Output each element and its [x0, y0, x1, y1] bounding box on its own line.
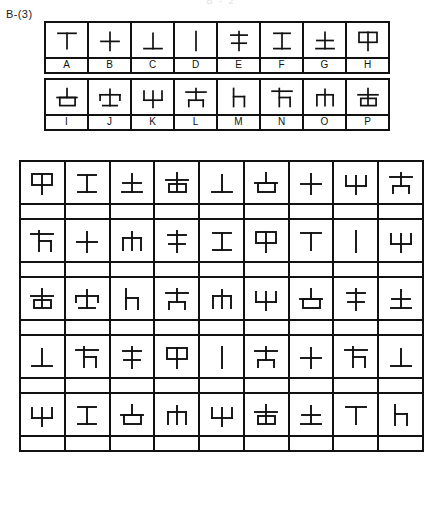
answer-cell[interactable]: [200, 263, 245, 276]
answer-cell[interactable]: [155, 379, 200, 392]
legend-symbol-h-small-right: [218, 80, 261, 114]
answer-cell[interactable]: [111, 263, 156, 276]
answer-cell[interactable]: [290, 263, 335, 276]
answer-cell[interactable]: [111, 321, 156, 334]
answer-cell[interactable]: [334, 205, 379, 218]
grid-symbol-box-on-stem-low: [245, 162, 290, 203]
grid-answer-row[interactable]: [21, 203, 422, 218]
grid-band-5: [21, 392, 422, 450]
grid-symbol-t-with-short-legs: [379, 162, 422, 203]
answer-cell[interactable]: [379, 263, 422, 276]
legend-letter-row: IJKLMNOP: [46, 114, 388, 129]
answer-cell[interactable]: [290, 379, 335, 392]
legend-letter-e: E: [218, 59, 261, 72]
answer-cell[interactable]: [379, 379, 422, 392]
legend-letter-j: J: [89, 116, 132, 129]
grid-symbol-i-beam: [66, 394, 111, 435]
legend-letter-n: N: [261, 116, 304, 129]
legend-letter-a: A: [46, 59, 89, 72]
symbol-legend: ABCDEFGHIJKLMNOP: [44, 21, 390, 131]
answer-cell[interactable]: [200, 437, 245, 450]
grid-symbol-double-cross-high: [155, 220, 200, 261]
answer-cell[interactable]: [21, 205, 66, 218]
grid-symbol-t-with-short-legs: [245, 336, 290, 377]
answer-cell[interactable]: [245, 321, 290, 334]
answer-cell[interactable]: [245, 379, 290, 392]
grid-symbol-boxed-tee: [245, 220, 290, 261]
legend-letter-i: I: [46, 116, 89, 129]
grid-symbol-cross-on-base: [111, 162, 156, 203]
legend-symbol-row: [46, 80, 388, 114]
grid-answer-row[interactable]: [21, 261, 422, 276]
grid-band-4: [21, 334, 422, 392]
answer-cell[interactable]: [155, 321, 200, 334]
answer-grid: [19, 160, 424, 452]
answer-cell[interactable]: [290, 321, 335, 334]
grid-answer-row[interactable]: [21, 377, 422, 392]
grid-answer-row[interactable]: [21, 319, 422, 334]
answer-cell[interactable]: [66, 437, 111, 450]
answer-cell[interactable]: [245, 437, 290, 450]
answer-cell[interactable]: [21, 263, 66, 276]
grid-symbol-cross-on-base: [290, 394, 335, 435]
legend-letter-m: M: [218, 116, 261, 129]
grid-symbol-flag-right-leg: [66, 336, 111, 377]
answer-cell[interactable]: [155, 263, 200, 276]
answer-cell[interactable]: [200, 379, 245, 392]
legend-block-2: IJKLMNOP: [44, 78, 390, 131]
answer-cell[interactable]: [334, 379, 379, 392]
answer-cell[interactable]: [21, 437, 66, 450]
answer-cell[interactable]: [334, 437, 379, 450]
legend-letter-o: O: [304, 116, 347, 129]
legend-letter-h: H: [347, 59, 388, 72]
grid-symbol-i-beam: [66, 162, 111, 203]
answer-cell[interactable]: [155, 205, 200, 218]
answer-cell[interactable]: [200, 321, 245, 334]
answer-cell[interactable]: [379, 205, 422, 218]
answer-cell[interactable]: [111, 205, 156, 218]
answer-cell[interactable]: [379, 321, 422, 334]
grid-symbol-boxed-tee: [21, 162, 66, 203]
grid-symbol-row: [21, 336, 422, 377]
answer-cell[interactable]: [66, 263, 111, 276]
grid-symbol-tee-down: [290, 220, 335, 261]
legend-symbol-pi-arch: [304, 80, 347, 114]
legend-letter-c: C: [132, 59, 175, 72]
legend-symbol-row: [46, 23, 388, 57]
answer-cell[interactable]: [21, 321, 66, 334]
legend-symbol-tee-down: [46, 23, 89, 57]
answer-cell[interactable]: [111, 379, 156, 392]
legend-symbol-box-on-stem-high: [347, 80, 388, 114]
answer-cell[interactable]: [66, 321, 111, 334]
answer-cell[interactable]: [334, 263, 379, 276]
answer-cell[interactable]: [334, 321, 379, 334]
legend-block-1: ABCDEFGH: [44, 21, 390, 74]
legend-symbol-psi-fork: [132, 80, 175, 114]
legend-symbol-tee-up: [132, 23, 175, 57]
grid-band-1: [21, 162, 422, 218]
grid-symbol-boxed-tee: [155, 336, 200, 377]
legend-symbol-plus: [89, 23, 132, 57]
grid-symbol-t-with-short-legs: [155, 278, 200, 319]
grid-symbol-tee-down: [334, 394, 379, 435]
grid-symbol-vertical-bar: [200, 336, 245, 377]
answer-cell[interactable]: [155, 437, 200, 450]
answer-cell[interactable]: [379, 437, 422, 450]
grid-symbol-flag-right-leg: [21, 220, 66, 261]
answer-cell[interactable]: [111, 437, 156, 450]
answer-cell[interactable]: [66, 205, 111, 218]
grid-answer-row[interactable]: [21, 435, 422, 450]
legend-letter-d: D: [175, 59, 218, 72]
answer-cell[interactable]: [245, 205, 290, 218]
answer-cell[interactable]: [21, 379, 66, 392]
answer-cell[interactable]: [290, 437, 335, 450]
answer-cell[interactable]: [290, 205, 335, 218]
grid-symbol-box-on-stem-high: [21, 278, 66, 319]
answer-cell[interactable]: [200, 205, 245, 218]
answer-cell[interactable]: [66, 379, 111, 392]
grid-symbol-box-on-stem-high: [245, 394, 290, 435]
grid-symbol-t-with-wide-cap: [66, 278, 111, 319]
grid-symbol-h-small-right: [111, 278, 156, 319]
answer-cell[interactable]: [245, 263, 290, 276]
legend-letter-b: B: [89, 59, 132, 72]
